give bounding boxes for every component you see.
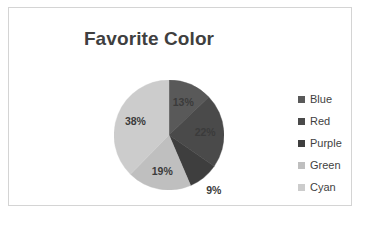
legend-swatch-icon [298, 140, 305, 147]
legend-swatch-icon [298, 184, 305, 191]
legend-item-blue[interactable]: Blue [298, 88, 364, 110]
legend-item-cyan[interactable]: Cyan [298, 176, 364, 198]
pie-label-red: 22% [192, 126, 218, 138]
pie-label-green: 19% [149, 165, 175, 177]
pie-label-purple: 9% [201, 184, 227, 196]
legend-label-cyan: Cyan [310, 181, 336, 194]
legend-item-green[interactable]: Green [298, 154, 364, 176]
chart-title: Favorite Color [9, 28, 289, 50]
legend-label-green: Green [310, 159, 341, 172]
legend-label-purple: Purple [310, 137, 342, 150]
legend-swatch-icon [298, 162, 305, 169]
legend-item-purple[interactable]: Purple [298, 132, 364, 154]
legend-label-red: Red [310, 115, 330, 128]
legend-item-red[interactable]: Red [298, 110, 364, 132]
legend-swatch-icon [298, 118, 305, 125]
chart-legend: Blue Red Purple Green Cyan [298, 88, 364, 198]
pie-label-blue: 13% [170, 96, 196, 108]
pie-chart: 13% 22% 9% 19% 38% [114, 80, 224, 190]
chart-card: Favorite Color 13% 22% 9% 19% 38% Blue [0, 0, 367, 229]
chart-frame: Favorite Color 13% 22% 9% 19% 38% Blue [8, 7, 352, 206]
legend-label-blue: Blue [310, 93, 332, 106]
pie-label-cyan: 38% [122, 115, 148, 127]
legend-swatch-icon [298, 96, 305, 103]
